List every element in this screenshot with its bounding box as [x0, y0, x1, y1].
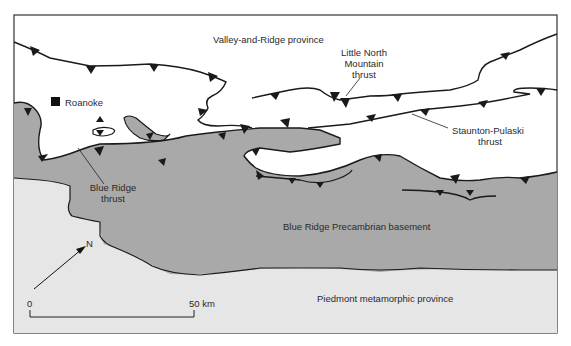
little-north-mountain-label: Little North	[341, 47, 387, 58]
little-north-mountain-label-3: thrust	[352, 69, 376, 80]
roanoke-city-marker	[51, 97, 60, 106]
geologic-map: Valley-and-Ridge province Little North M…	[0, 0, 571, 346]
little-north-mountain-label-2: Mountain	[344, 58, 383, 69]
roanoke-label: Roanoke	[65, 97, 103, 108]
staunton-pulaski-label-2: thrust	[478, 136, 502, 147]
north-label: N	[86, 238, 93, 249]
piedmont-label: Piedmont metamorphic province	[317, 293, 453, 304]
staunton-pulaski-label: Staunton-Pulaski	[452, 125, 524, 136]
blue-ridge-basement-label: Blue Ridge Precambrian basement	[283, 221, 431, 232]
blue-ridge-thrust-label: Blue Ridge	[90, 182, 136, 193]
blue-ridge-thrust-label-2: thrust	[101, 193, 125, 204]
scale-end-label: 50 km	[189, 298, 215, 309]
scale-start-label: 0	[27, 298, 32, 309]
valley-window	[93, 127, 115, 136]
valley-and-ridge-label: Valley-and-Ridge province	[213, 34, 324, 45]
